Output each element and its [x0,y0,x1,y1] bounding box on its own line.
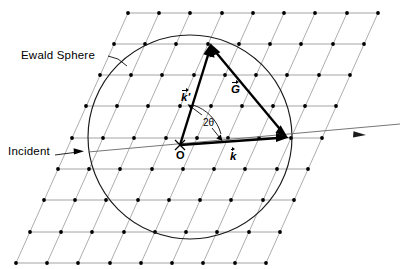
g-vector-label: G [231,79,240,96]
lattice-point [362,42,366,46]
lattice-point [209,104,213,108]
lattice-point [108,261,112,265]
lattice-point [215,230,219,234]
lattice-point [157,11,161,15]
incident-ray-arrowhead [353,131,366,137]
vector-arrow-overbar-icon [181,87,190,92]
lattice-point [150,167,154,171]
lattice-point [229,198,233,202]
lattice-point [240,104,244,108]
lattice-point [76,261,80,265]
lattice-point [90,230,94,234]
lattice-point [331,42,335,46]
lattice-point [174,42,178,46]
lattice-point [195,136,199,140]
two-theta-label: 2θ [203,118,214,128]
lattice-point [275,167,279,171]
lattice-point [206,42,210,46]
ewald-sphere-circle [88,35,292,239]
lattice-point [201,261,205,265]
incident-leader [55,148,84,155]
k-vector-label: k [230,146,236,163]
lattice-point [254,73,258,77]
lattice-point [59,230,63,234]
lattice-point [84,104,88,108]
lattice-point [115,104,119,108]
lattice-point [247,230,251,234]
lattice-point [73,198,77,202]
lattice-point [264,261,268,265]
lattice-point [220,11,224,15]
lattice-point [181,167,185,171]
lattice-point [132,136,136,140]
lattice-point [184,230,188,234]
lattice-point [306,167,310,171]
lattice-point [345,11,349,15]
lattice-point [320,136,324,140]
origin-label: O [176,150,185,161]
lattice-point [42,198,46,202]
incident-label: Incident [8,146,50,158]
lattice-point [278,230,282,234]
lattice-point [112,42,116,46]
lattice-point [198,198,202,202]
lattice-point [170,261,174,265]
lattice-point [271,104,275,108]
lattice-point [223,73,227,77]
lattice-point [233,261,237,265]
ewald-sphere-label: Ewald Sphere [21,50,95,62]
g-symbol: G [231,84,240,96]
lattice-point [303,104,307,108]
lattice-point [70,136,74,140]
g-vector-line [214,50,284,134]
lattice-point [251,11,255,15]
lattice-point [348,73,352,77]
lattice-point [136,198,140,202]
diagram-canvas [0,0,401,269]
lattice-point [98,73,102,77]
lattice-point [139,261,143,265]
lattice-point [334,104,338,108]
lattice-point [129,73,133,77]
vector-arrow-overbar-icon [230,146,236,151]
lattice-point [317,73,321,77]
lattice-point [261,198,265,202]
lattice-point [28,230,32,234]
k-prime-vector-label: k' [181,87,190,104]
lattice-point [45,261,49,265]
lattice-point [87,167,91,171]
lattice-point [313,11,317,15]
lattice-point [101,136,105,140]
lattice-point [282,11,286,15]
lattice-point [285,73,289,77]
lattice-point [56,167,60,171]
lattice-point [212,167,216,171]
lattice-point [160,73,164,77]
lattice-point [192,73,196,77]
lattice-point [178,104,182,108]
lattice-point [292,198,296,202]
vector-arrow-overbar-icon [231,79,240,84]
lattice-point [14,261,18,265]
lattice-point [243,167,247,171]
lattice-point [118,167,122,171]
k-prime-symbol: k' [181,92,190,104]
lattice-point [268,42,272,46]
lattice-point [122,230,126,234]
lattice-point [188,11,192,15]
lattice-point [376,11,380,15]
incident-leader-arrowhead [74,148,84,154]
k-symbol: k [230,151,236,163]
lattice-point [104,198,108,202]
lattice-point [164,136,168,140]
ewald-sphere-figure: Ewald Sphere Incident O 2θ k' G k [0,0,401,269]
g-vector [210,44,289,138]
lattice-point [146,104,150,108]
lattice-point [299,42,303,46]
lattice-point [237,42,241,46]
lattice-point [167,198,171,202]
lattice-point [126,11,130,15]
